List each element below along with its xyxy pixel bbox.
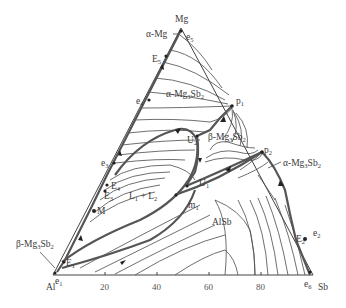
- isotherms-upper: [115, 35, 232, 163]
- vertex-sb-label: Sb: [318, 282, 328, 292]
- point-e1: [53, 271, 56, 274]
- label-M: M: [97, 206, 106, 216]
- point-p1: [230, 104, 234, 108]
- tick-40: 40: [152, 282, 162, 292]
- label-p1: p1: [236, 96, 244, 107]
- invariant-points: [53, 29, 311, 274]
- label-alpha-mg: α-Mg: [146, 29, 168, 39]
- label-E1: E1: [66, 258, 75, 269]
- label-beta-mg3sb2-center: β-Mg3Sb2: [208, 132, 246, 143]
- label-l1-l2: L1 + L2: [129, 191, 157, 202]
- point-E4: [105, 183, 108, 186]
- label-beta-mg3sb2-left: β-Mg3Sb2: [16, 239, 54, 250]
- tick-80: 80: [256, 282, 266, 292]
- point-e5: [179, 29, 182, 32]
- label-e2: e2: [313, 228, 320, 239]
- point-e6: [308, 270, 311, 273]
- label-alpha-mg3sb2-right: α-Mg3Sb2: [283, 158, 321, 169]
- point-E5: [164, 54, 167, 57]
- ternary-phase-diagram: Mg Al Sb 20 40 60 80 α-Mg α-Mg3Sb2 β-Mg3…: [0, 0, 346, 308]
- label-E2: E2: [296, 234, 305, 245]
- label-e6: e6: [304, 279, 312, 290]
- label-alpha-mg3sb2-top: α-Mg3Sb2: [166, 89, 204, 100]
- point-m1: [174, 193, 177, 196]
- monovariant-lines: [57, 30, 310, 275]
- label-e4: e4: [136, 96, 144, 107]
- label-e5: e5: [186, 32, 193, 43]
- label-e1: e1: [55, 276, 62, 287]
- tick-20: 20: [100, 282, 110, 292]
- label-E4: E4: [111, 181, 121, 192]
- label-U1: U1: [199, 178, 209, 189]
- label-e3: e3: [101, 158, 108, 169]
- tick-60: 60: [204, 282, 214, 292]
- label-p2: p2: [264, 145, 272, 156]
- point-U2: [195, 134, 198, 137]
- point-e3: [112, 161, 115, 164]
- point-U1: [185, 184, 188, 187]
- label-alsb: AlSb: [212, 217, 232, 227]
- label-m1: m1: [188, 200, 199, 211]
- point-e4: [147, 98, 150, 101]
- point-M: [92, 209, 96, 213]
- vertex-mg-label: Mg: [175, 14, 188, 24]
- triangle-frame: [53, 28, 313, 275]
- label-E3: E3: [104, 191, 113, 202]
- label-E5: E5: [152, 54, 161, 65]
